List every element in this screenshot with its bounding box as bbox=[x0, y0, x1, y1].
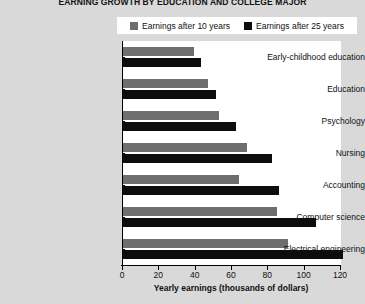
legend-label-25-years: Earnings after 25 years bbox=[256, 21, 344, 31]
chart-container: EARNING GROWTH BY EDUCATION AND COLLEGE … bbox=[0, 0, 365, 304]
chart-title: EARNING GROWTH BY EDUCATION AND COLLEGE … bbox=[0, 0, 365, 8]
bar-25-years bbox=[123, 58, 201, 67]
y-axis-tick bbox=[122, 217, 125, 218]
y-axis-label: Nursing bbox=[247, 148, 365, 158]
gray-square-icon bbox=[130, 22, 138, 30]
y-axis-label: Computer science bbox=[247, 212, 365, 222]
bar-10-years bbox=[123, 79, 208, 88]
legend-entry-25-years: Earnings after 25 years bbox=[244, 21, 344, 31]
x-axis-tick-label: 40 bbox=[180, 270, 210, 281]
y-axis-label: Psychology bbox=[247, 116, 365, 126]
bar-10-years bbox=[123, 175, 239, 184]
bar-25-years bbox=[123, 90, 216, 99]
y-axis-tick bbox=[122, 89, 125, 90]
y-axis-label: Electrical engineering bbox=[247, 244, 365, 254]
y-axis-tick bbox=[122, 153, 125, 154]
bar-25-years bbox=[123, 122, 236, 131]
x-axis-tick-label: 20 bbox=[143, 270, 173, 281]
x-axis-tick-label: 120 bbox=[325, 270, 355, 281]
legend-entry-10-years: Earnings after 10 years bbox=[130, 21, 230, 31]
y-axis-tick bbox=[122, 121, 125, 122]
x-axis-title: Yearly earnings (thousands of dollars) bbox=[122, 283, 340, 293]
x-axis-tick-label: 80 bbox=[252, 270, 282, 281]
black-square-icon bbox=[244, 22, 252, 30]
legend-label-10-years: Earnings after 10 years bbox=[142, 21, 230, 31]
x-axis-tick-label: 0 bbox=[107, 270, 137, 281]
chart-legend: Earnings after 10 years Earnings after 2… bbox=[117, 17, 357, 34]
bar-10-years bbox=[123, 47, 194, 56]
x-axis-tick-label: 100 bbox=[289, 270, 319, 281]
y-axis-label: Accounting bbox=[247, 180, 365, 190]
y-axis-tick bbox=[122, 249, 125, 250]
x-axis-tick-label: 60 bbox=[216, 270, 246, 281]
y-axis-label: Early-childhood education bbox=[247, 52, 365, 62]
y-axis-label: Education bbox=[247, 84, 365, 94]
bar-10-years bbox=[123, 111, 219, 120]
y-axis-tick bbox=[122, 185, 125, 186]
bar-10-years bbox=[123, 143, 247, 152]
y-axis-tick bbox=[122, 57, 125, 58]
